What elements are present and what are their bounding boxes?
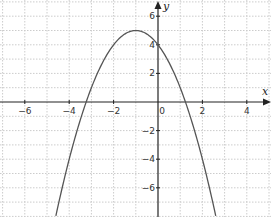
y-tick-label: −4 (142, 154, 156, 164)
x-tick-label: −6 (18, 106, 32, 116)
grid-lines (0, 0, 271, 217)
x-tick-label: 0 (159, 106, 165, 116)
x-axis-arrow-icon (263, 99, 271, 106)
function-plot: −6−4−2024−6−4−2246 x y (0, 0, 271, 217)
y-tick-label: −2 (142, 126, 155, 136)
y-axis-label: y (162, 0, 170, 13)
x-tick-label: −4 (63, 106, 77, 116)
y-tick-label: 2 (149, 68, 155, 78)
x-tick-label: 2 (200, 106, 206, 116)
x-tick-label: 4 (244, 106, 250, 116)
y-tick-label: 6 (149, 11, 155, 21)
y-tick-label: −6 (142, 183, 156, 193)
x-tick-label: −2 (107, 106, 120, 116)
x-axis-label: x (262, 85, 269, 98)
